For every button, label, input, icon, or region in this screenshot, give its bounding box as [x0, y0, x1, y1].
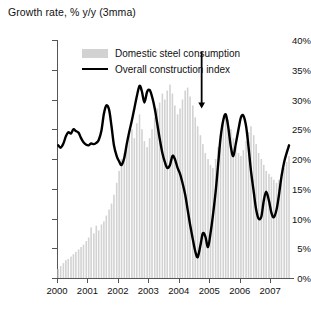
chart-title: Growth rate, % y/y (3mma) [8, 6, 136, 18]
arrow-head-icon [198, 102, 205, 108]
bar [83, 245, 85, 278]
x-tick-2006 [240, 278, 241, 283]
bar-swatch-icon [82, 49, 108, 58]
bar [63, 263, 65, 278]
bar [238, 153, 240, 278]
bar [60, 266, 62, 278]
bar [131, 129, 133, 278]
bar [271, 177, 273, 278]
bar [164, 100, 166, 279]
x-tick-label-2006: 2006 [229, 285, 250, 296]
legend-label-domestic-steel-consumption: Domestic steel consumption [115, 48, 240, 59]
bar [174, 105, 176, 278]
bars-series-domestic-steel-consumption [57, 85, 289, 278]
bar [177, 114, 179, 278]
bar [75, 252, 77, 278]
bar [166, 91, 168, 278]
bar [233, 138, 235, 278]
x-axis-line [57, 278, 294, 279]
bar [95, 226, 97, 278]
legend-item-domestic-steel-consumption: Domestic steel consumption [82, 46, 240, 60]
bar [283, 168, 285, 278]
bar [268, 174, 270, 278]
bar [67, 259, 69, 278]
bar [205, 153, 207, 278]
bar [121, 159, 123, 278]
bar [192, 105, 194, 278]
bar [124, 153, 126, 278]
bar [265, 171, 267, 278]
bar [88, 238, 90, 278]
bar [151, 129, 153, 278]
bar [222, 123, 224, 278]
bar [90, 227, 92, 278]
bar [57, 269, 59, 278]
x-tick-label-2002: 2002 [107, 285, 128, 296]
x-tick-label-2007: 2007 [260, 285, 281, 296]
legend-item-overall-construction-index: Overall construction index [82, 62, 240, 76]
bar [227, 120, 229, 278]
bar [162, 94, 164, 278]
bar [288, 156, 290, 278]
x-tick-label-2005: 2005 [199, 285, 220, 296]
x-tick-2005 [209, 278, 210, 283]
bar [118, 171, 120, 278]
bar [73, 254, 75, 278]
bar [136, 123, 138, 278]
x-tick-2000 [57, 278, 58, 283]
bar [200, 135, 202, 278]
bar [243, 150, 245, 278]
chart-container: Growth rate, % y/y (3mma) 0%5%10%15%20%2… [0, 0, 311, 320]
bar [154, 117, 156, 278]
bar [250, 126, 252, 278]
bar [98, 230, 100, 278]
bar [184, 91, 186, 278]
bar [65, 260, 67, 278]
bar [146, 147, 148, 278]
bar [172, 94, 174, 278]
legend-label-overall-construction-index: Overall construction index [115, 64, 230, 75]
bar [111, 204, 113, 278]
bar [245, 141, 247, 278]
bar [93, 233, 95, 278]
bar [101, 224, 103, 278]
bar [273, 180, 275, 278]
bar [240, 156, 242, 278]
chart-legend: Domestic steel consumption Overall const… [82, 46, 240, 78]
bar [103, 221, 105, 278]
bar [235, 147, 237, 278]
bar [253, 135, 255, 278]
bar [80, 247, 82, 278]
bar [70, 257, 72, 278]
bar [179, 108, 181, 278]
bar [108, 210, 110, 278]
bar [126, 144, 128, 278]
bar [116, 183, 118, 278]
bar [207, 159, 209, 278]
bar [78, 249, 80, 278]
bar [144, 141, 146, 278]
bar [189, 97, 191, 278]
x-tick-label-2003: 2003 [138, 285, 159, 296]
bar [85, 241, 87, 278]
bar [187, 88, 189, 278]
x-tick-label-2004: 2004 [168, 285, 189, 296]
bar [141, 129, 143, 278]
x-tick-2002 [118, 278, 119, 283]
x-tick-label-2000: 2000 [46, 285, 67, 296]
x-tick-label-2001: 2001 [77, 285, 98, 296]
x-tick-2004 [179, 278, 180, 283]
bar [134, 138, 136, 278]
bar [113, 195, 115, 278]
bar [169, 85, 171, 278]
bar [263, 165, 265, 278]
bar [149, 138, 151, 278]
line-swatch-icon [82, 68, 108, 70]
bar [202, 144, 204, 278]
bar [139, 114, 141, 278]
bar [106, 216, 108, 278]
x-tick-2001 [87, 278, 88, 283]
bar [286, 162, 288, 278]
bar [225, 114, 227, 278]
x-tick-2003 [148, 278, 149, 283]
